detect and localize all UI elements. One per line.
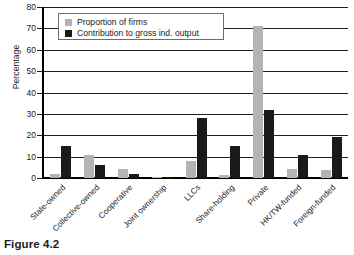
y-tick-label-60: 60 xyxy=(0,46,36,55)
bar-joint-ownership-series-2 xyxy=(163,177,173,178)
bar-cooperative-series-2 xyxy=(129,174,139,178)
bar-private-series-2 xyxy=(264,110,274,178)
y-tick-label-20: 20 xyxy=(0,131,36,140)
tick-mark-50 xyxy=(37,71,42,72)
y-tick-label-70: 70 xyxy=(0,24,36,33)
tick-mark-80 xyxy=(37,7,42,8)
tick-mark-30 xyxy=(37,114,42,115)
bar-collective-owned-series-1 xyxy=(84,155,94,179)
legend-label-contribution-to-output: Contribution to gross ind. output xyxy=(77,29,199,38)
y-tick-label-80: 80 xyxy=(0,3,36,12)
bar-cooperative-series-1 xyxy=(118,169,128,178)
bar-hk-tw-funded-series-1 xyxy=(287,169,297,178)
tick-mark-70 xyxy=(37,28,42,29)
bar-foreign-funded-series-1 xyxy=(321,170,331,178)
bar-share-holding-series-2 xyxy=(230,146,240,178)
y-tick-label-10: 10 xyxy=(0,153,36,162)
legend-item-contribution-to-output: Contribution to gross ind. output xyxy=(65,27,199,39)
tick-mark-20 xyxy=(37,135,42,136)
figure-caption: Figure 4.2 xyxy=(4,238,59,250)
bar-state-owned-series-2 xyxy=(61,146,71,178)
figure-4-2: Percentage 01020304050607080 State-owned… xyxy=(0,0,354,255)
bar-collective-owned-series-2 xyxy=(95,165,105,178)
legend-swatch-icon-dark xyxy=(65,30,72,37)
y-tick-label-50: 50 xyxy=(0,67,36,76)
bar-llcs-series-1 xyxy=(186,161,196,178)
y-tick-label-30: 30 xyxy=(0,110,36,119)
bar-share-holding-series-1 xyxy=(219,175,229,178)
bar-llcs-series-2 xyxy=(197,118,207,178)
legend-label-proportion-of-firms: Proportion of firms xyxy=(77,18,147,27)
x-axis-category-labels: State-ownedCollective-ownedCooperativeJo… xyxy=(0,179,354,235)
tick-mark-40 xyxy=(37,93,42,94)
bar-hk-tw-funded-series-2 xyxy=(298,155,308,179)
y-tick-label-40: 40 xyxy=(0,89,36,98)
bar-joint-ownership-series-1 xyxy=(152,177,162,178)
legend: Proportion of firms Contribution to gros… xyxy=(58,13,224,40)
legend-swatch-icon-light xyxy=(65,19,72,26)
tick-mark-10 xyxy=(37,157,42,158)
bar-state-owned-series-1 xyxy=(50,174,60,178)
bar-private-series-1 xyxy=(253,26,263,178)
tick-mark-60 xyxy=(37,50,42,51)
bar-foreign-funded-series-2 xyxy=(332,137,342,178)
